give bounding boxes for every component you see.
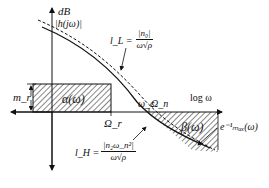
l-H-fraction: |n₂ω_n²| ω√ρ [101, 141, 136, 162]
omega-n-label: Ω_n [151, 99, 168, 109]
y-axis-label-magnitude: |h(jω)| [55, 19, 82, 29]
m-r-label: m_r [13, 92, 31, 103]
x-axis-label: log ω [190, 93, 212, 103]
l-H-lhs: l_H = [75, 148, 99, 158]
l-H-numerator: |n₂ω_n²| [101, 141, 136, 152]
l-L-lhs: l_L = [110, 36, 132, 46]
e-max-label: e⁻¹ₘₐₓ(ω) [220, 122, 258, 132]
l-H-denominator: ω√ρ [111, 152, 127, 162]
alpha-label: α(ω) [62, 93, 85, 105]
l-L-fraction: |n₀| ω√ρ [136, 29, 153, 50]
y-axis-label-db: dB [58, 6, 70, 17]
l-L-denominator: ω√ρ [136, 40, 152, 50]
beta-label: β(ω) [181, 121, 203, 133]
omega-r-label: Ω_r [104, 118, 122, 129]
l-L-numerator: |n₀| [136, 29, 153, 40]
l-L-pointer [121, 48, 126, 70]
l-H-pointer [133, 127, 146, 140]
